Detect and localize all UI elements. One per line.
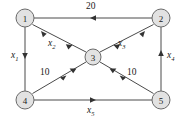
edge-label-x5-sub: 5 (91, 110, 94, 117)
node-4[interactable]: 4 (16, 91, 34, 109)
edge-label-x4: x4 (167, 51, 174, 62)
edge-label-10-left-text: 10 (40, 67, 50, 77)
edge-label-x2-sub: 2 (52, 43, 55, 50)
node-4-label: 4 (23, 96, 28, 106)
edge-4-to-5 (34, 97, 152, 103)
edge-label-10-right: 10 (127, 68, 137, 78)
arrow-head-1-4 (22, 53, 28, 59)
edge-label-10-right-text: 10 (127, 67, 137, 77)
network-diagram: 1 2 3 4 5 20 x1 x2 x3 x4 x5 (0, 0, 186, 121)
node-5[interactable]: 5 (152, 91, 170, 109)
node-5-label: 5 (159, 96, 164, 106)
edge-label-x3-sub: 3 (122, 43, 125, 50)
arrow-head-4-5 (90, 97, 96, 103)
edge-2-to-1 (34, 15, 152, 21)
edge-label-x2: x2 (48, 39, 55, 50)
graph-canvas: 1 2 3 4 5 (0, 0, 186, 121)
edge-5-to-2 (158, 27, 164, 91)
edge-1-to-4 (22, 27, 28, 91)
edge-label-10-left: 10 (40, 68, 50, 78)
edge-label-20: 20 (86, 2, 96, 12)
node-1-label: 1 (23, 14, 28, 24)
edge-label-x3: x3 (118, 39, 125, 50)
arrow-head-3-2 (139, 31, 145, 37)
arrow-head-5-2 (158, 50, 164, 56)
edge-label-x1-sub: 1 (15, 55, 18, 62)
node-1[interactable]: 1 (16, 9, 34, 27)
edge-line-1-3 (33, 25, 87, 53)
node-3-label: 3 (91, 53, 96, 63)
arrow-head-2-1 (90, 15, 96, 21)
arrow-head-1-3 (66, 44, 73, 49)
node-2-label: 2 (159, 14, 164, 24)
edge-label-20-text: 20 (86, 1, 96, 11)
edge-label-x1: x1 (11, 51, 18, 62)
edge-line-2-3 (100, 25, 154, 53)
edge-label-x4-sub: 4 (171, 55, 174, 62)
node-3[interactable]: 3 (85, 49, 101, 65)
node-2[interactable]: 2 (152, 9, 170, 27)
edge-label-x5: x5 (87, 106, 94, 117)
arrow-head-3-1 (41, 31, 47, 37)
